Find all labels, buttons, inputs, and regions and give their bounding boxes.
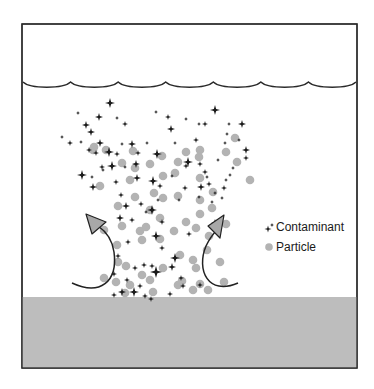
particle-dot	[158, 152, 167, 161]
particle-dot	[149, 288, 158, 297]
particle-dot	[138, 236, 147, 245]
particle-dot	[156, 214, 165, 223]
particle-dot	[142, 223, 151, 232]
particle-dot	[96, 182, 105, 191]
particle-dot	[131, 193, 140, 202]
particle-dot	[129, 147, 138, 156]
legend-label-contaminant: Contaminant	[276, 220, 344, 234]
particle-dot	[220, 278, 229, 287]
particle-dot	[189, 286, 198, 295]
particle-dot	[231, 134, 240, 143]
legend-label-particle: Particle	[276, 240, 316, 254]
particle-dot	[122, 262, 131, 271]
particle-dot	[170, 227, 179, 236]
particle-dot	[138, 271, 147, 280]
particle-dot	[114, 202, 123, 211]
particle-dot	[159, 172, 168, 181]
particle-dot	[174, 281, 183, 290]
particle-dot	[196, 174, 205, 183]
particle-dot	[146, 160, 155, 169]
particle-dot	[208, 204, 217, 213]
particle-dot	[182, 218, 191, 227]
particle-dot	[159, 264, 168, 273]
particle-dot	[159, 194, 168, 203]
airborne-particle-diagram	[0, 0, 374, 389]
particle-dot	[182, 148, 191, 157]
particle-dot	[216, 258, 225, 267]
particle-dot	[195, 153, 204, 162]
particle-dot	[204, 286, 213, 295]
particle-dot	[118, 222, 127, 231]
particle-dot	[150, 189, 159, 198]
particle-dot	[196, 210, 205, 219]
particle-dot	[131, 164, 140, 173]
particle-dot	[233, 158, 242, 167]
particle-dot	[246, 176, 255, 185]
particle-dot	[126, 176, 135, 185]
particle-dot	[192, 224, 201, 233]
particle-dot	[174, 192, 183, 201]
particle-dot	[189, 256, 198, 265]
particle-dot	[209, 188, 218, 197]
particle-dot-icon	[265, 243, 273, 251]
particle-dot	[146, 276, 155, 285]
particle-dot	[222, 148, 231, 157]
particle-dot	[174, 158, 183, 167]
particle-dot	[112, 278, 121, 287]
ground-surface	[22, 297, 357, 368]
particle-dot	[192, 264, 201, 273]
